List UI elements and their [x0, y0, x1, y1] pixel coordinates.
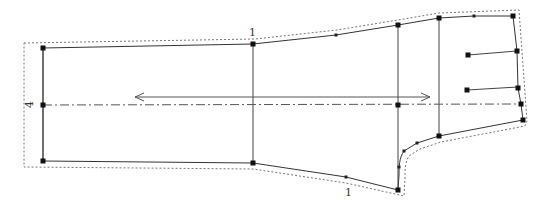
pattern-piece-outline	[43, 16, 523, 190]
control-point[interactable]	[521, 118, 526, 123]
control-point[interactable]	[41, 103, 46, 108]
dart-line-lower	[467, 87, 518, 90]
control-point[interactable]	[465, 88, 470, 93]
control-point[interactable]	[396, 188, 401, 193]
control-point[interactable]	[466, 53, 471, 58]
seam-allowance-outline	[24, 10, 527, 196]
control-point[interactable]	[437, 134, 442, 139]
curve-point[interactable]	[403, 150, 406, 153]
bottom-seam-label: 1	[345, 186, 352, 199]
top-seam-label: 1	[249, 26, 256, 39]
control-point[interactable]	[251, 161, 256, 166]
curve-point[interactable]	[416, 142, 419, 145]
left-edge-label: 4	[23, 101, 36, 108]
curve-point[interactable]	[345, 176, 348, 179]
dart-line-upper	[468, 51, 517, 55]
pattern-canvas: 114	[0, 0, 549, 212]
control-point[interactable]	[516, 86, 521, 91]
control-point[interactable]	[396, 103, 401, 108]
center-line	[43, 104, 521, 105]
control-point[interactable]	[41, 46, 46, 51]
curve-point[interactable]	[398, 166, 401, 169]
curve-point[interactable]	[473, 15, 476, 18]
control-point[interactable]	[437, 16, 442, 21]
pattern-labels: 114	[23, 26, 352, 199]
curve-point[interactable]	[335, 34, 338, 37]
grainline-arrow	[135, 93, 430, 101]
control-point[interactable]	[396, 23, 401, 28]
control-point[interactable]	[519, 102, 524, 107]
control-point[interactable]	[515, 49, 520, 54]
control-point[interactable]	[251, 42, 256, 47]
control-point[interactable]	[41, 159, 46, 164]
control-point[interactable]	[511, 14, 516, 19]
